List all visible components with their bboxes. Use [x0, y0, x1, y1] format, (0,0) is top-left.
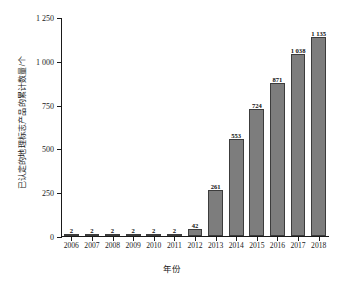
bar: 724 [249, 109, 264, 236]
bar: 1 135 [311, 37, 326, 236]
bar: 2 [146, 234, 161, 236]
bar-value-label: 2 [173, 227, 176, 234]
bar-value-label: 261 [211, 183, 221, 190]
bar-value-label: 1 038 [291, 47, 306, 54]
x-tick-label: 2007 [84, 241, 99, 250]
x-tick-label: 2012 [187, 241, 202, 250]
x-tick-label: 2018 [311, 241, 326, 250]
y-tick-label: 1 000 [14, 57, 54, 66]
bar-value-label: 2 [90, 227, 93, 234]
bar-value-label: 2 [152, 227, 155, 234]
bar-value-label: 871 [272, 76, 282, 83]
y-tick [57, 193, 62, 194]
bar: 2 [126, 234, 141, 236]
y-tick [57, 237, 62, 238]
bar-value-label: 2 [70, 227, 73, 234]
bar: 42 [188, 229, 203, 236]
bar-value-label: 2 [131, 227, 134, 234]
x-tick-label: 2010 [146, 241, 161, 250]
y-tick [57, 149, 62, 150]
x-tick-label: 2014 [229, 241, 244, 250]
bar-value-label: 42 [192, 222, 199, 229]
x-tick-label: 2011 [167, 241, 182, 250]
bar: 2 [64, 234, 79, 236]
plot-area: 02505007501 0001 250 2006200720082009201… [61, 18, 329, 237]
x-tick-label: 2016 [270, 241, 285, 250]
x-tick-label: 2013 [208, 241, 223, 250]
bar: 1 038 [291, 54, 306, 236]
bar-value-label: 724 [252, 102, 262, 109]
bar-value-label: 553 [231, 132, 241, 139]
y-tick-label: 500 [14, 145, 54, 154]
x-axis-title: 年份 [0, 262, 344, 274]
bar-chart-figure: 已认定的地理标志产品的累计数量/个 02505007501 0001 250 2… [0, 0, 344, 289]
x-tick-label: 2009 [126, 241, 141, 250]
bar: 2 [167, 234, 182, 236]
y-tick [57, 62, 62, 63]
y-tick [57, 18, 62, 19]
y-tick [57, 106, 62, 107]
x-tick-label: 2015 [249, 241, 264, 250]
bar: 2 [85, 234, 100, 236]
y-tick-label: 250 [14, 189, 54, 198]
y-axis-line [61, 18, 62, 237]
bar: 2 [105, 234, 120, 236]
x-tick-label: 2017 [290, 241, 305, 250]
x-tick-label: 2006 [64, 241, 79, 250]
bar: 871 [270, 83, 285, 236]
y-tick-label: 1 250 [14, 14, 54, 23]
bar: 261 [208, 190, 223, 236]
bar-value-label: 1 135 [311, 30, 326, 37]
y-tick-label: 750 [14, 101, 54, 110]
bar: 553 [229, 139, 244, 236]
bar-value-label: 2 [111, 227, 114, 234]
x-tick-label: 2008 [105, 241, 120, 250]
y-tick-label: 0 [14, 233, 54, 242]
